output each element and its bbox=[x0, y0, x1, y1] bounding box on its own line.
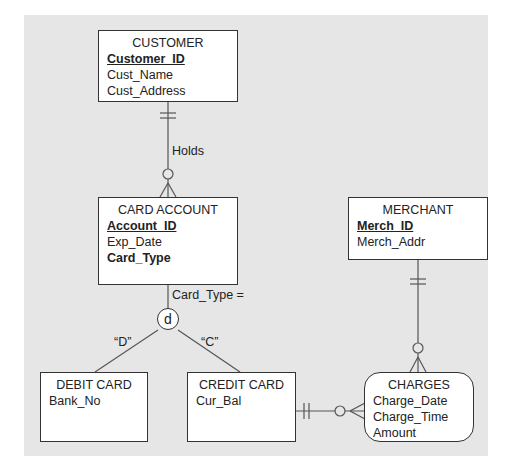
entity-name: CREDIT CARD bbox=[188, 378, 295, 393]
attribute: Cust_Name bbox=[99, 67, 237, 83]
attribute-primary-key: Merch_ID bbox=[357, 218, 413, 234]
entity-card-account[interactable]: CARD ACCOUNT Account_ID Exp_Date Card_Ty… bbox=[98, 197, 238, 285]
entity-name: CUSTOMER bbox=[99, 36, 237, 51]
attribute-primary-key: Account_ID bbox=[107, 218, 176, 234]
entity-customer[interactable]: CUSTOMER Customer_ID Cust_Name Cust_Addr… bbox=[98, 30, 238, 102]
attribute: Bank_No bbox=[41, 393, 147, 409]
relationship-label-holds: Holds bbox=[172, 144, 204, 158]
subtype-discriminator-label: Card_Type = bbox=[172, 288, 244, 302]
attribute: Cust_Address bbox=[99, 83, 237, 99]
entity-charges[interactable]: CHARGES Charge_Date Charge_Time Amount bbox=[364, 372, 474, 442]
disjoint-circle: d bbox=[157, 308, 179, 330]
subtype-value-credit: “C” bbox=[201, 335, 218, 349]
attribute: Amount bbox=[365, 425, 473, 441]
attribute-primary-key: Customer_ID bbox=[107, 51, 185, 67]
attribute: Charge_Time bbox=[365, 409, 473, 425]
entity-debit-card[interactable]: DEBIT CARD Bank_No bbox=[40, 372, 148, 442]
entity-merchant[interactable]: MERCHANT Merch_ID Merch_Addr bbox=[348, 197, 488, 260]
attribute: Charge_Date bbox=[365, 393, 473, 409]
attribute-discriminator: Card_Type bbox=[99, 250, 237, 266]
entity-name: CARD ACCOUNT bbox=[99, 203, 237, 218]
attribute: Exp_Date bbox=[99, 234, 237, 250]
entity-credit-card[interactable]: CREDIT CARD Cur_Bal bbox=[187, 372, 296, 442]
entity-name: DEBIT CARD bbox=[41, 378, 147, 393]
attribute: Merch_Addr bbox=[349, 234, 487, 250]
entity-name: CHARGES bbox=[365, 378, 473, 393]
subtype-value-debit: “D” bbox=[114, 335, 131, 349]
entity-name: MERCHANT bbox=[349, 203, 487, 218]
attribute: Cur_Bal bbox=[188, 393, 295, 409]
